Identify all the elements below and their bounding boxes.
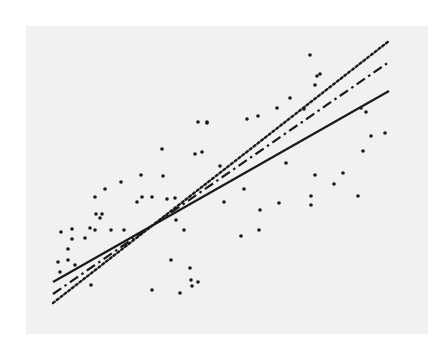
data-point (165, 197, 169, 201)
data-point (332, 182, 336, 186)
regression-lines (53, 41, 389, 303)
data-point (275, 106, 279, 110)
data-point (66, 258, 70, 262)
data-point (288, 96, 292, 100)
data-point (56, 260, 60, 264)
scatter-plot-with-regression-lines (0, 0, 445, 345)
data-point (200, 150, 204, 154)
data-point (361, 149, 365, 153)
data-point (196, 280, 200, 284)
data-point (369, 134, 373, 138)
data-point (66, 247, 70, 251)
data-point (119, 180, 123, 184)
data-point (98, 216, 102, 220)
data-point (70, 227, 74, 231)
data-point (122, 228, 126, 232)
data-point (341, 171, 345, 175)
data-point (109, 228, 113, 232)
regression-line-dash-dot (53, 62, 389, 294)
data-point (359, 106, 363, 110)
data-point (313, 173, 317, 177)
data-point (93, 195, 97, 199)
data-point (242, 187, 246, 191)
data-point (135, 200, 139, 204)
data-point (364, 110, 368, 114)
data-point (258, 208, 262, 212)
data-point (309, 194, 313, 198)
data-point (245, 117, 249, 121)
data-point (188, 266, 192, 270)
data-point (103, 187, 107, 191)
data-point (93, 228, 97, 232)
data-point (308, 53, 312, 57)
data-point (59, 230, 63, 234)
data-point (189, 278, 193, 282)
data-point (182, 228, 186, 232)
data-point (190, 284, 194, 288)
data-point (161, 174, 165, 178)
data-point (284, 161, 288, 165)
data-point (315, 74, 319, 78)
data-point (174, 218, 178, 222)
data-point (89, 283, 93, 287)
regression-line-dotted (53, 41, 389, 303)
data-point (58, 270, 62, 274)
data-point (160, 147, 164, 151)
data-point (193, 152, 197, 156)
data-point (277, 201, 281, 205)
data-point (83, 236, 87, 240)
data-point (256, 114, 260, 118)
data-point (94, 212, 98, 216)
data-point (150, 288, 154, 292)
data-point (100, 212, 104, 216)
data-point (218, 164, 222, 168)
data-point (88, 226, 92, 230)
data-point (73, 263, 77, 267)
data-point (205, 121, 209, 125)
data-point (383, 131, 387, 135)
data-point (222, 200, 226, 204)
data-point (196, 120, 200, 124)
data-point (356, 194, 360, 198)
data-point (302, 107, 306, 111)
data-point (140, 195, 144, 199)
data-point (309, 203, 313, 207)
data-point (239, 234, 243, 238)
data-point (139, 173, 143, 177)
data-point (313, 83, 317, 87)
data-point (257, 228, 261, 232)
data-point (70, 237, 74, 241)
data-point (318, 72, 322, 76)
data-point (169, 258, 173, 262)
data-point (150, 195, 154, 199)
data-point (173, 196, 177, 200)
regression-line-solid (53, 91, 389, 282)
data-point (178, 291, 182, 295)
